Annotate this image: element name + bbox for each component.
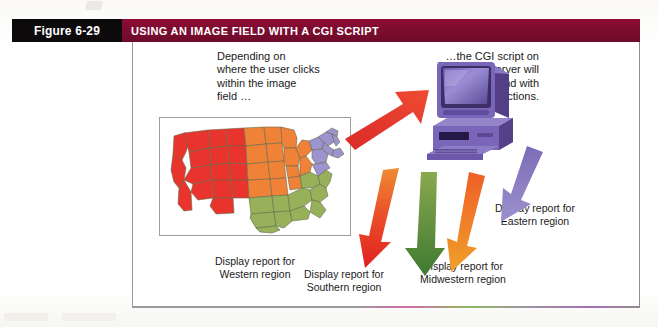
label-display-report-midwestern: Display report for Midwestern region xyxy=(395,260,531,285)
scan-artifact-top xyxy=(85,1,103,10)
figure-number: Figure 6-29 xyxy=(12,19,122,42)
figure-title: USING AN IMAGE FIELD WITH A CGI SCRIPT xyxy=(122,19,640,42)
label-display-report-southern: Display report for Southern region xyxy=(281,268,407,293)
label-display-report-eastern: Display report for Eastern region xyxy=(467,202,603,227)
western-response-arrow xyxy=(359,168,399,268)
figure-content: Depending on where the user clicks withi… xyxy=(133,42,639,306)
callout-user-clicks: Depending on where the user clicks withi… xyxy=(217,50,320,104)
web-server-computer xyxy=(421,56,527,164)
figure-page: Figure 6-29 USING AN IMAGE FIELD WITH A … xyxy=(0,0,658,327)
scan-artifact-bottom-left xyxy=(4,313,48,321)
figure-body-frame: Depending on where the user clicks withi… xyxy=(132,42,640,308)
image-field-map[interactable] xyxy=(159,117,351,236)
us-map-graphic xyxy=(160,118,350,235)
computer-icon xyxy=(421,56,527,164)
scan-artifact-bottom-right xyxy=(62,313,116,321)
figure-header: Figure 6-29 USING AN IMAGE FIELD WITH A … xyxy=(12,19,640,42)
